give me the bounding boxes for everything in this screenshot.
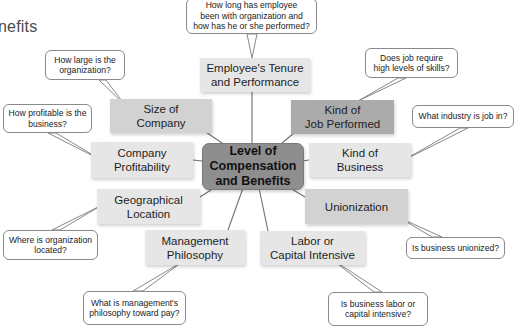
question-line: located? (34, 245, 67, 255)
factor-label-line: and Performance (211, 76, 299, 88)
question-line: high levels of skills? (374, 63, 450, 73)
question-line: organization? (59, 65, 111, 75)
factor-label-line: Business (337, 161, 384, 173)
center-label-line: Compensation (210, 159, 297, 173)
factor-label-line: Company (117, 147, 166, 159)
center-label-line: and Benefits (215, 174, 290, 188)
factor-label-line: Kind of (325, 104, 361, 116)
factor-label-line: Job Performed (305, 118, 380, 130)
question-bubble-union: Is business unionized? (406, 237, 505, 259)
factor-label-line: Employee's Tenure (206, 62, 303, 74)
factor-box-size: Size ofCompany (110, 99, 212, 133)
question-bubble-job: Does job requirehigh levels of skills? (365, 48, 458, 78)
factor-box-profitability: CompanyProfitability (91, 142, 193, 178)
question-bubble-profitability: How profitable is thebusiness? (3, 104, 92, 133)
question-line: business? (28, 119, 67, 129)
factor-box-tenure: Employee's Tenureand Performance (200, 58, 310, 92)
question-line: Is business unionized? (412, 243, 499, 253)
factor-box-union: Unionization (305, 189, 408, 224)
factor-label-line: Company (136, 117, 185, 129)
question-line: capital intensive? (345, 309, 411, 319)
factor-label-line: Profitability (114, 161, 170, 173)
factor-label-line: Size of (143, 103, 178, 115)
question-line: been with organization and (200, 11, 303, 21)
center-label-line: Level of (229, 144, 276, 158)
factor-box-location: GeographicalLocation (97, 189, 200, 224)
question-bubble-business: What industry is job in? (412, 105, 514, 128)
center-box: Level ofCompensationand Benefits (202, 143, 304, 190)
question-line: What industry is job in? (419, 111, 508, 121)
question-line: Is business labor or (341, 299, 416, 309)
factor-label-line: Kind of (342, 147, 378, 159)
question-line: Does job require (380, 53, 443, 63)
factor-box-labor: Labor orCapital Intensive (260, 231, 365, 265)
question-line: philosophy toward pay? (89, 308, 179, 318)
question-line: how has he or she performed? (193, 21, 310, 31)
question-bubble-management: What is management'sphilosophy toward pa… (83, 291, 186, 325)
factor-label-line: Management (161, 235, 228, 247)
question-line: What is management's (91, 298, 178, 308)
factor-box-management: ManagementPhilosophy (145, 230, 245, 265)
factor-label-line: Capital Intensive (270, 249, 355, 261)
question-line: How large is the (54, 55, 116, 65)
factor-label-line: Location (127, 208, 170, 220)
question-bubble-location: Where is organizationlocated? (3, 230, 98, 260)
factor-box-job: Kind ofJob Performed (291, 100, 394, 134)
question-line: How profitable is the (9, 108, 87, 118)
factor-label-line: Geographical (114, 194, 182, 206)
factor-label-line: Labor or (291, 235, 334, 247)
question-bubble-size: How large is theorganization? (45, 50, 125, 80)
factor-label-line: Unionization (325, 201, 388, 213)
question-line: Where is organization (9, 235, 92, 245)
question-bubble-tenure: How long has employeebeen with organizat… (186, 0, 317, 34)
factor-box-business: Kind ofBusiness (309, 143, 411, 177)
question-line: How long has employee (206, 0, 298, 10)
factor-label-line: Philosophy (167, 249, 223, 261)
question-bubble-labor: Is business labor orcapital intensive? (328, 292, 428, 326)
